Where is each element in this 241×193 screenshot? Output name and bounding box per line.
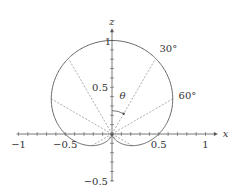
angle-line — [68, 58, 112, 134]
z-axis-label: z — [108, 16, 115, 27]
theta-label: θ — [119, 90, 125, 101]
x-tick-label: −0.5 — [53, 139, 77, 150]
theta-arrow-icon — [122, 113, 124, 115]
x-axis-label: x — [223, 128, 229, 139]
x-tick-label: 1 — [202, 139, 208, 150]
z-axis-arrow-icon — [110, 28, 114, 32]
x-axis-arrow-icon — [214, 132, 218, 136]
x-tick-label: 0.5 — [151, 139, 167, 150]
polar-plot: −1−0.50.51−0.50.51xzθ30°60° — [0, 0, 241, 193]
angle-label-30: 30° — [159, 43, 177, 54]
axes — [17, 28, 218, 182]
z-tick-label: 0.5 — [92, 82, 108, 93]
x-tick-label: −1 — [11, 139, 26, 150]
labels: −1−0.50.51−0.50.51xzθ30°60° — [11, 16, 229, 187]
z-tick-label: 1 — [105, 36, 111, 47]
angle-label-60: 60° — [179, 90, 197, 101]
theta-arc — [112, 111, 124, 114]
z-tick-label: −0.5 — [84, 176, 108, 187]
